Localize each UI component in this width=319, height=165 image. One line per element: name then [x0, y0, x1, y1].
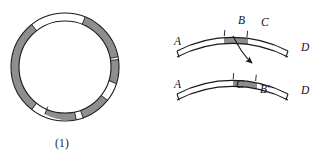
upper-arc-group — [177, 20, 288, 65]
lower-arc-group — [177, 63, 288, 108]
label-lower-Bprime: B′ — [260, 84, 270, 96]
label-lower-D: D — [301, 85, 309, 97]
lower-arc-tick-Bprime — [256, 75, 257, 81]
ring-shaded-segments — [11, 17, 119, 120]
figure-caption-1: (1) — [55, 137, 69, 149]
label-upper-A: A — [174, 36, 181, 48]
upper-arc-tick-B — [224, 30, 225, 36]
label-lower-A: A — [174, 79, 181, 91]
label-upper-B: B — [238, 15, 245, 27]
ring-outer-circle — [11, 13, 119, 121]
ring-segment-bottom-right — [65, 67, 108, 119]
ring-inner-circle — [19, 21, 111, 113]
lower-arc-inner-edge — [177, 86, 288, 100]
upper-arc-inner-edge — [177, 43, 288, 57]
label-lower-C: C — [236, 79, 244, 91]
ring-panel: (1) — [0, 0, 160, 165]
upper-arc-tick-C — [247, 31, 248, 37]
ring-diagram — [0, 0, 160, 165]
lower-arc-outer-edge — [177, 80, 288, 94]
label-upper-C: C — [261, 17, 269, 29]
strips-panel: A B C D A C B′ D (2) — [160, 0, 319, 165]
label-upper-D: D — [301, 42, 309, 54]
figure-root: (1) — [0, 0, 319, 165]
